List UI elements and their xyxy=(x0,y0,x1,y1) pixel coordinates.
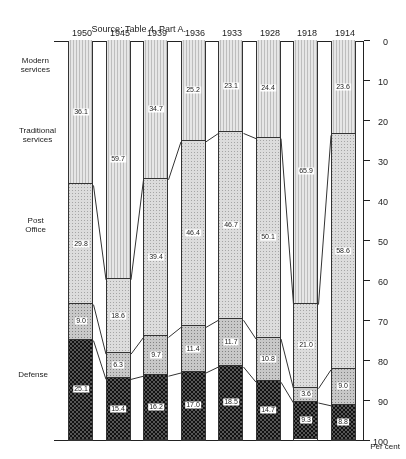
label-modern-line1: Modern xyxy=(21,56,50,65)
segment-post-office: 46.7 xyxy=(220,132,243,319)
value-label: 6.3 xyxy=(113,362,125,369)
value-label: 8.8 xyxy=(338,418,350,425)
value-label: 46.4 xyxy=(186,230,202,237)
y-tick-label: 30 xyxy=(378,157,388,167)
y-tick xyxy=(364,40,370,41)
y-tick xyxy=(364,360,370,361)
segment-traditional-services: 9.0 xyxy=(70,304,93,340)
y-tick-label: 0 xyxy=(383,37,388,47)
segment-modern-services: 14.7 xyxy=(257,381,280,440)
value-label: 24.4 xyxy=(261,85,277,92)
value-label: 23.1 xyxy=(223,82,239,89)
y-axis-line xyxy=(363,41,364,441)
value-label: 10.8 xyxy=(261,356,277,363)
value-label: 46.7 xyxy=(223,222,239,229)
value-label: 50.1 xyxy=(261,234,277,241)
label-post-office: Post Office xyxy=(25,216,46,234)
year-label-1936: 1936 xyxy=(185,28,205,38)
segment-modern-services: 9.3 xyxy=(295,402,318,439)
segment-post-office: 29.8 xyxy=(70,184,93,303)
bar-1939: 34.739.49.716.2 xyxy=(144,41,169,441)
segment-post-office: 18.6 xyxy=(107,279,130,353)
year-label-1933: 1933 xyxy=(222,28,242,38)
bar-1918: 65.921.03.69.3 xyxy=(294,41,319,441)
value-label: 17.0 xyxy=(186,402,202,409)
y-tick xyxy=(364,240,370,241)
year-label-1918: 1918 xyxy=(297,28,317,38)
segment-traditional-services: 9.7 xyxy=(145,336,168,375)
value-label: 21.0 xyxy=(298,342,314,349)
value-label: 34.7 xyxy=(148,105,164,112)
y-tick xyxy=(364,160,370,161)
y-tick-label: 70 xyxy=(378,317,388,327)
segment-traditional-services: 9.0 xyxy=(332,369,355,405)
value-label: 36.1 xyxy=(73,108,89,115)
segment-defense: 36.1 xyxy=(70,40,93,184)
value-label: 9.3 xyxy=(300,417,312,424)
value-label: 65.9 xyxy=(298,168,314,175)
value-label: 18.6 xyxy=(111,312,127,319)
segment-defense: 23.1 xyxy=(220,40,243,132)
label-defense: Defense xyxy=(18,370,48,379)
segment-modern-services: 25.1 xyxy=(70,340,93,440)
value-label: 25.1 xyxy=(73,386,89,393)
value-label: 16.2 xyxy=(148,404,164,411)
year-label-1914: 1914 xyxy=(335,28,355,38)
y-tick xyxy=(364,320,370,321)
value-label: 25.2 xyxy=(186,86,202,93)
y-tick-label: 20 xyxy=(378,117,388,127)
segment-post-office: 39.4 xyxy=(145,179,168,337)
y-tick-label: 100 xyxy=(373,437,388,447)
y-tick xyxy=(364,400,370,401)
segment-modern-services: 17.0 xyxy=(182,372,205,440)
y-tick-label: 10 xyxy=(378,77,388,87)
year-label-1950: 1950 xyxy=(72,28,92,38)
y-tick-label: 50 xyxy=(378,237,388,247)
year-label-1945: 1945 xyxy=(110,28,130,38)
segment-traditional-services: 11.7 xyxy=(220,319,243,366)
y-tick-label: 80 xyxy=(378,357,388,367)
bar-1936: 25.246.411.417.0 xyxy=(181,41,206,441)
year-label-1928: 1928 xyxy=(260,28,280,38)
value-label: 39.4 xyxy=(148,254,164,261)
segment-post-office: 58.6 xyxy=(332,134,355,368)
segment-modern-services: 18.5 xyxy=(220,366,243,440)
label-traditional-line1: Traditional xyxy=(19,126,56,135)
segment-defense: 25.2 xyxy=(182,40,205,141)
segment-post-office: 50.1 xyxy=(257,138,280,338)
label-post-office-line2: Office xyxy=(25,225,46,234)
y-tick xyxy=(364,80,370,81)
value-label: 11.7 xyxy=(223,339,238,346)
y-tick xyxy=(364,280,370,281)
chart-stage: Source: Table 4, Part A. Per cent 010203… xyxy=(0,0,406,459)
year-label-1939: 1939 xyxy=(147,28,167,38)
value-label: 9.0 xyxy=(75,318,87,325)
value-label: 58.6 xyxy=(336,248,352,255)
segment-modern-services: 15.4 xyxy=(107,378,130,440)
label-traditional-line2: services xyxy=(19,135,56,144)
y-tick-label: 40 xyxy=(378,197,388,207)
segment-traditional-services: 11.4 xyxy=(182,326,205,372)
value-label: 11.4 xyxy=(186,345,201,352)
y-tick-label: 60 xyxy=(378,277,388,287)
bar-1928: 24.450.110.814.7 xyxy=(256,41,281,441)
value-label: 9.7 xyxy=(150,352,162,359)
value-label: 23.6 xyxy=(336,83,352,90)
segment-traditional-services: 3.6 xyxy=(295,388,318,402)
value-label: 59.7 xyxy=(111,155,127,162)
y-tick-label: 90 xyxy=(378,397,388,407)
segment-defense: 65.9 xyxy=(295,40,318,304)
segment-defense: 24.4 xyxy=(257,40,280,138)
label-modern-line2: services xyxy=(21,65,50,74)
y-tick xyxy=(364,120,370,121)
bar-1914: 23.658.69.08.8 xyxy=(331,41,356,441)
bar-1933: 23.146.711.718.5 xyxy=(219,41,244,441)
y-tick xyxy=(364,200,370,201)
value-label: 9.0 xyxy=(338,383,350,390)
segment-modern-services: 16.2 xyxy=(145,375,168,440)
value-label: 14.7 xyxy=(261,407,277,414)
segment-post-office: 21.0 xyxy=(295,304,318,388)
segment-defense: 59.7 xyxy=(107,40,130,279)
bar-1945: 59.718.66.315.4 xyxy=(106,41,131,441)
label-traditional-services: Traditional services xyxy=(19,126,56,144)
